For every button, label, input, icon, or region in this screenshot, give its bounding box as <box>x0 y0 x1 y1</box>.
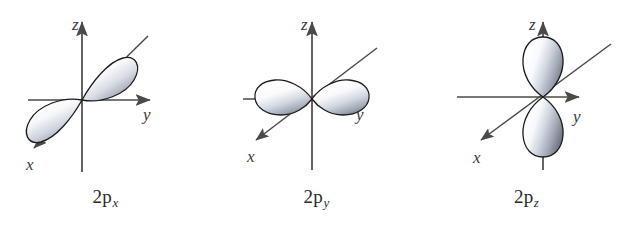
lobe-negative-y <box>255 80 312 115</box>
lobe-negative-z <box>523 97 563 157</box>
caption-subscript: x <box>112 195 118 210</box>
orbital-diagram-2pz: z y x <box>421 0 632 190</box>
lobe-positive-x <box>82 58 138 101</box>
orbital-diagram-2px: z y x <box>0 0 211 190</box>
y-axis-label: y <box>571 107 581 126</box>
lobe-negative-x <box>26 99 82 142</box>
orbital-panel-2px: z y x 2px <box>0 0 211 234</box>
orbital-caption-2pz: 2pz <box>421 186 632 211</box>
x-axis-label: x <box>25 155 34 174</box>
caption-subscript: y <box>323 195 329 210</box>
orbital-diagram-2py: z y x <box>211 0 422 190</box>
caption-subscript: z <box>533 195 539 210</box>
lobe-positive-z <box>523 37 563 97</box>
orbital-caption-2py: 2py <box>211 186 422 211</box>
orbital-panel-2pz: z y x 2pz <box>421 0 632 234</box>
z-axis-label: z <box>528 15 536 34</box>
caption-prefix: 2p <box>93 186 112 207</box>
x-axis-label: x <box>472 148 481 167</box>
z-axis-label: z <box>71 15 79 34</box>
x-axis-label: x <box>246 147 255 166</box>
y-axis-label: y <box>354 105 364 124</box>
orbital-panel-2py: z y x 2py <box>211 0 422 234</box>
caption-prefix: 2p <box>514 186 533 207</box>
z-axis-label: z <box>300 15 308 34</box>
orbital-figure: z y x 2px <box>0 0 632 234</box>
orbital-caption-2px: 2px <box>0 186 211 211</box>
caption-prefix: 2p <box>304 186 323 207</box>
y-axis-label: y <box>141 105 151 124</box>
